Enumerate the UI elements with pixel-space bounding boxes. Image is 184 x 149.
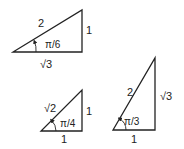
angle-label: π/4 (60, 118, 76, 129)
opposite-label: 1 (86, 105, 92, 117)
adjacent-label: √3 (40, 58, 52, 70)
angle-arc-icon (35, 42, 37, 53)
opposite-label: √3 (160, 90, 172, 102)
angle-label: π/6 (45, 39, 61, 50)
angle-arc-icon (52, 120, 56, 131)
adjacent-label: 1 (61, 133, 67, 145)
opposite-label: 1 (86, 24, 92, 36)
hypotenuse-label: √2 (44, 102, 56, 114)
triangle-pi-over-3: 2 √3 π/3 1 (113, 58, 172, 145)
hypotenuse-label: 2 (127, 86, 133, 98)
triangles-diagram: 2 1 π/6 √3 √2 1 π/4 1 2 √3 π/3 1 (0, 0, 184, 149)
hypotenuse-label: 2 (38, 17, 44, 29)
adjacent-label: 1 (131, 133, 137, 145)
triangle-pi-over-6: 2 1 π/6 √3 (13, 10, 92, 70)
angle-label: π/3 (124, 116, 140, 127)
triangle-pi-over-4: √2 1 π/4 1 (41, 90, 92, 145)
